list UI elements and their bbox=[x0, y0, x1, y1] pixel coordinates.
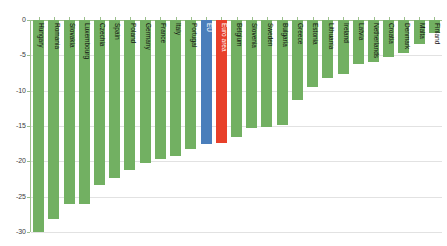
y-tick-label: -15 bbox=[0, 122, 26, 129]
y-tick-mark bbox=[27, 232, 30, 233]
bar-label: Finland bbox=[434, 23, 441, 44]
bar-label: Sweden bbox=[267, 23, 274, 47]
bar-label: EU bbox=[206, 23, 213, 32]
bar-label: Netherlands bbox=[373, 23, 380, 58]
bar-spain[interactable] bbox=[109, 20, 120, 178]
bar-label: Luxembourg bbox=[84, 23, 91, 59]
bar-romania[interactable] bbox=[48, 20, 59, 219]
bar-label: Germany bbox=[145, 23, 152, 50]
bar-label: Malta bbox=[419, 23, 426, 39]
gridline bbox=[31, 232, 442, 233]
bar-label: Ireland bbox=[343, 23, 350, 43]
bar-label: France bbox=[160, 23, 167, 43]
bar-label: Slovenia bbox=[251, 23, 258, 48]
bar-label: Slovakia bbox=[69, 23, 76, 48]
bars-group: HungaryRomaniaSlovakiaLuxembourgCzechiaS… bbox=[31, 20, 442, 232]
y-tick-label: -20 bbox=[0, 157, 26, 164]
bar-chart: 0-5-10-15-20-25-30 HungaryRomaniaSlovaki… bbox=[0, 0, 447, 246]
bar-eu[interactable] bbox=[201, 20, 212, 144]
bar-label: Greece bbox=[297, 23, 304, 44]
bar-label: Spain bbox=[114, 23, 121, 40]
bar-label: Lithuania bbox=[328, 23, 335, 49]
y-tick-label: 0 bbox=[0, 16, 26, 23]
y-tick-label: -10 bbox=[0, 87, 26, 94]
bar-label: Denmark bbox=[404, 23, 411, 49]
bar-label: Romania bbox=[54, 23, 61, 49]
y-tick-label: -30 bbox=[0, 228, 26, 235]
y-tick-label: -5 bbox=[0, 51, 26, 58]
bar-label: Euro area bbox=[221, 23, 228, 52]
bar-label: Hungary bbox=[38, 23, 45, 48]
bar-hungary[interactable] bbox=[33, 20, 44, 232]
bar-italy[interactable] bbox=[170, 20, 181, 156]
bar-label: Czechia bbox=[99, 23, 106, 46]
y-tick-label: -25 bbox=[0, 193, 26, 200]
bar-label: Italy bbox=[175, 23, 182, 35]
bar-label: Portugal bbox=[191, 23, 198, 47]
bar-label: Estonia bbox=[312, 23, 319, 45]
bar-label: Bulgaria bbox=[282, 23, 289, 47]
bar-label: Croatia bbox=[388, 23, 395, 44]
bar-label: Belgium bbox=[236, 23, 243, 46]
bar-label: Latvia bbox=[358, 23, 365, 40]
bar-label: Poland bbox=[130, 23, 137, 43]
